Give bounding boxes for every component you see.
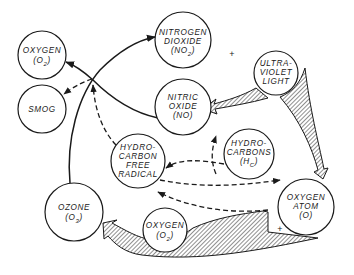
hydrocarbons-up-arrow — [212, 136, 216, 174]
svg-text:HYDRO-: HYDRO- — [231, 139, 267, 148]
svg-text:NITROGEN: NITROGEN — [159, 28, 207, 37]
svg-text:OXYGEN: OXYGEN — [23, 46, 62, 55]
svg-text:(O): (O) — [299, 211, 313, 220]
svg-text:FREE: FREE — [126, 161, 150, 170]
svg-text:OXYGEN: OXYGEN — [146, 221, 185, 230]
node-oxygen-atom: OXYGEN ATOM (O) — [278, 179, 334, 235]
oxygen-atom-to-radical-arrow — [158, 192, 268, 211]
svg-text:RADICAL: RADICAL — [118, 170, 158, 179]
svg-text:OZONE: OZONE — [58, 203, 90, 212]
svg-text:OXIDE: OXIDE — [169, 102, 197, 111]
svg-text:OXYGEN: OXYGEN — [287, 193, 326, 202]
svg-text:CARBON: CARBON — [119, 152, 158, 161]
smog-cycle-diagram: OXYGEN (O2) SMOG NITROGEN DIOXIDE (NO2) … — [0, 0, 354, 275]
svg-text:DIOXIDE: DIOXIDE — [164, 37, 202, 46]
plus-symbol-top: + — [229, 49, 234, 59]
node-oxygen-bottom: OXYGEN (O2) — [143, 208, 187, 252]
radical-to-oxygen-atom-arrow — [160, 180, 280, 185]
svg-text:ULTRA-: ULTRA- — [260, 59, 293, 68]
plus-symbol-bottom: + — [277, 224, 282, 234]
svg-text:LIGHT: LIGHT — [262, 77, 290, 86]
node-hydrocarbons: HYDRO- CARBONS (HC) — [224, 129, 274, 179]
svg-text:VIOLET: VIOLET — [260, 68, 293, 77]
svg-text:CARBONS: CARBONS — [227, 148, 272, 157]
radical-to-intersection-arrow — [93, 85, 116, 145]
node-hydrocarbon-free-radical: HYDRO- CARBON FREE RADICAL — [111, 134, 165, 188]
svg-text:ATOM: ATOM — [292, 202, 318, 211]
nitric-oxide-to-oxygen-arrow — [66, 62, 158, 118]
svg-text:(NO): (NO) — [173, 111, 193, 120]
node-nitric-oxide: NITRIC OXIDE (NO) — [155, 79, 211, 135]
node-ozone: OZONE (O3) — [45, 183, 103, 241]
node-oxygen-top: OXYGEN (O2) — [18, 31, 66, 79]
uv-to-nitric-oxide-arrow — [203, 88, 268, 114]
hydrocarbons-to-radical-arrow — [166, 161, 224, 168]
svg-text:NITRIC: NITRIC — [168, 93, 199, 102]
node-ultraviolet-light: ULTRA- VIOLET LIGHT — [254, 51, 298, 95]
node-smog: SMOG — [18, 85, 66, 133]
svg-text:HYDRO-: HYDRO- — [120, 143, 156, 152]
node-nitrogen-dioxide: NITROGEN DIOXIDE (NO2) — [155, 12, 211, 68]
svg-text:SMOG: SMOG — [28, 105, 55, 114]
